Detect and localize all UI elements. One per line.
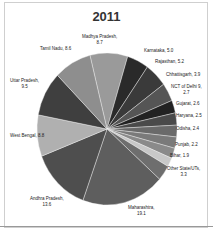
label-punjab: Punjab, 2.2 <box>175 142 198 148</box>
divider <box>0 226 213 227</box>
label-uttar-pradesh: Uttar Pradesh,9.5 <box>10 78 39 90</box>
label-west-bengal: West Bengal, 8.8 <box>10 133 44 139</box>
label-karnataka: Karnataka, 5.0 <box>144 48 173 54</box>
label-chhattisgarh: Chhattisgarh, 3.9 <box>166 72 200 78</box>
label-madhya-pradesh: Madhya Pradesh,8.7 <box>82 34 117 46</box>
label-andhra-pradesh: Andhra Pradesh,13.6 <box>30 196 64 208</box>
label-maharashtra: Maharashtra,19.1 <box>128 205 155 217</box>
label-tamil-nadu: Tamil Nadu, 8.6 <box>40 46 71 52</box>
label-haryana: Haryana, 2.5 <box>176 113 202 119</box>
label-other-states: Other State/UTs,3.3 <box>167 166 200 178</box>
label-odisha: Odisha, 2.4 <box>176 126 199 132</box>
label-bihar: Bihar, 1.9 <box>170 153 189 159</box>
label-nct-of-delhi: NCT of Delhi 9,2.7 <box>171 84 202 96</box>
label-rajasthan: Rajasthan, 5.2 <box>155 59 184 65</box>
label-gujarat: Gujarat, 2.6 <box>176 101 200 107</box>
